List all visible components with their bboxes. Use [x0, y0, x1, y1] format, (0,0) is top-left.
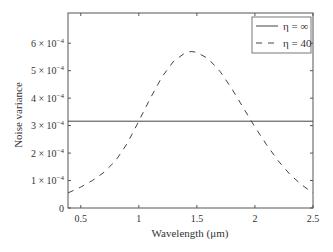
- y-tick-label: 5 × 10−4: [31, 64, 65, 76]
- y-tick-label: 1 × 10−4: [31, 174, 65, 186]
- noise-variance-chart: 0.511.522.5 01 × 10−42 × 10−43 × 10−44 ×…: [0, 0, 333, 252]
- y-tick-label: 4 × 10−4: [31, 92, 65, 104]
- y-axis-label: Noise variance: [12, 82, 24, 148]
- x-tick-label: 2: [252, 213, 257, 224]
- x-tick-label: 1: [136, 213, 141, 224]
- x-tick-label: 2.5: [307, 213, 320, 224]
- series-eta-40-line: [68, 52, 313, 193]
- legend-label-eta-40: η = 40: [283, 37, 312, 49]
- y-tick-label: 0: [59, 203, 64, 214]
- x-axis-label: Wavelength (μm): [152, 227, 229, 240]
- x-tick-label: 1.5: [191, 213, 204, 224]
- legend: η = ∞ η = 40: [252, 17, 312, 53]
- y-tick-label: 2 × 10−4: [31, 147, 65, 159]
- y-tick-label: 6 × 10−4: [31, 37, 65, 49]
- x-tick-label: 0.5: [75, 213, 88, 224]
- legend-label-eta-infinity: η = ∞: [283, 20, 308, 32]
- series-layer: [68, 52, 313, 193]
- y-tick-label: 3 × 10−4: [31, 119, 65, 131]
